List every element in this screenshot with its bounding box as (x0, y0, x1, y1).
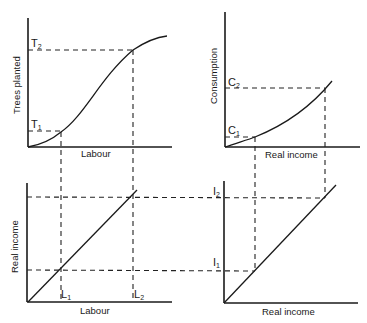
four-quadrant-diagram: T1 T2 Trees planted Labour C1 C2 Consump… (0, 0, 367, 323)
l1-label: L1 (61, 288, 71, 301)
i2-horizontal-guide (27, 197, 325, 198)
panel-income-45deg: I1 I2 Real income (213, 181, 358, 317)
panel-trees-vs-labour: T1 T2 Trees planted Labour (11, 18, 172, 159)
y-axis-label: Consumption (208, 48, 219, 104)
panel-consumption-vs-income: C1 C2 Consumption Real income (208, 12, 360, 160)
i2-label: I2 (213, 185, 220, 198)
y-axis-label: Trees planted (11, 56, 22, 114)
x-axis-label: Labour (81, 148, 111, 159)
x-axis-label: Real income (265, 149, 318, 160)
c2-label: C2 (228, 76, 240, 89)
t2-label: T2 (31, 37, 42, 50)
i1-label: I1 (213, 256, 220, 269)
c1-label: C1 (228, 124, 240, 137)
panel-income-vs-labour: L1 L2 Real income Labour (9, 183, 172, 316)
t1-label: T1 (31, 118, 42, 131)
forty-five-degree-line (224, 185, 336, 303)
y-axis-label: Real income (9, 220, 20, 273)
x-axis-label: Labour (80, 305, 110, 316)
consumption-curve (225, 81, 332, 147)
production-curve (28, 36, 167, 147)
income-line (28, 190, 137, 302)
l2-label: L2 (134, 288, 144, 301)
x-axis-label: Real income (262, 306, 315, 317)
